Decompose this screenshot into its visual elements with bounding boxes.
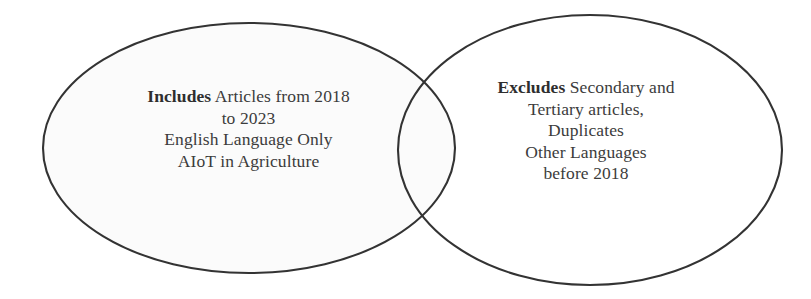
excludes-line-1: Excludes Secondary and bbox=[452, 77, 720, 99]
includes-line-1: Includes Articles from 2018 bbox=[96, 86, 401, 108]
excludes-criteria-text: Excludes Secondary and Tertiary articles… bbox=[452, 77, 720, 185]
excludes-line-2: Tertiary articles, bbox=[452, 99, 720, 121]
excludes-line-3: Duplicates bbox=[452, 120, 720, 142]
includes-lead-label: Includes bbox=[147, 86, 211, 106]
venn-diagram-figure: Includes Articles from 2018 to 2023 Engl… bbox=[0, 0, 811, 299]
includes-line-1-rest: Articles from 2018 bbox=[211, 86, 349, 106]
includes-line-4: AIoT in Agriculture bbox=[96, 151, 401, 173]
includes-criteria-text: Includes Articles from 2018 to 2023 Engl… bbox=[96, 86, 401, 172]
includes-line-2: to 2023 bbox=[96, 108, 401, 130]
includes-line-3: English Language Only bbox=[96, 129, 401, 151]
excludes-line-1-rest: Secondary and bbox=[565, 77, 674, 97]
excludes-lead-label: Excludes bbox=[497, 77, 565, 97]
excludes-line-4: Other Languages bbox=[452, 142, 720, 164]
excludes-line-5: before 2018 bbox=[452, 163, 720, 185]
